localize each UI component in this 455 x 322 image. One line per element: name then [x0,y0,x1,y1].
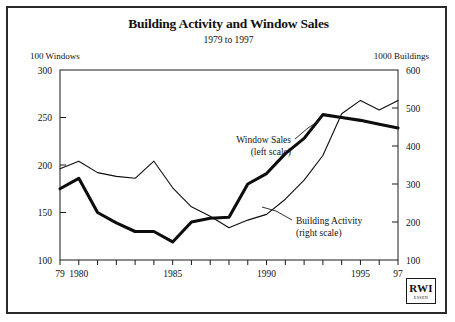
annotation-sublabel-window-sales: (left scale) [251,147,291,158]
x-tick-label: 79 [55,269,65,279]
plot-area: 79198019851990199597 100150200250300 100… [8,8,449,316]
left-axis: 100150200250300 [38,66,66,266]
x-tick-label: 1985 [163,269,182,279]
plot-border [60,70,398,260]
chart-svg: 79198019851990199597 100150200250300 100… [8,8,449,316]
right-axis: 100200300400500600 [392,66,421,266]
left-tick-label: 300 [38,66,53,76]
right-tick-label: 600 [406,66,421,76]
right-tick-label: 500 [406,104,421,114]
left-tick-label: 150 [38,208,53,218]
x-tick-label: 1980 [69,269,88,279]
right-tick-label: 400 [406,142,421,152]
logo-mark: RWI [409,283,433,294]
x-tick-label: 1995 [351,269,370,279]
logo-subtext: ESSEN [414,295,428,300]
chart-frame: Building Activity and Window Sales 1979 … [6,6,447,314]
x-tick-label: 1990 [257,269,276,279]
x-tick-label: 97 [393,269,403,279]
right-tick-label: 300 [406,180,421,190]
left-tick-label: 200 [38,161,53,171]
rwi-logo: RWI ESSEN [406,278,436,304]
right-tick-label: 200 [406,218,421,228]
annotation-label-window-sales: Window Sales [236,135,291,145]
left-tick-label: 250 [38,113,53,123]
leader-line-building-activity [262,207,292,220]
annotation-label-building-activity: Building Activity [296,216,362,226]
annotation-sublabel-building-activity: (right scale) [296,228,342,239]
right-tick-label: 100 [406,256,421,266]
left-tick-label: 100 [38,256,53,266]
